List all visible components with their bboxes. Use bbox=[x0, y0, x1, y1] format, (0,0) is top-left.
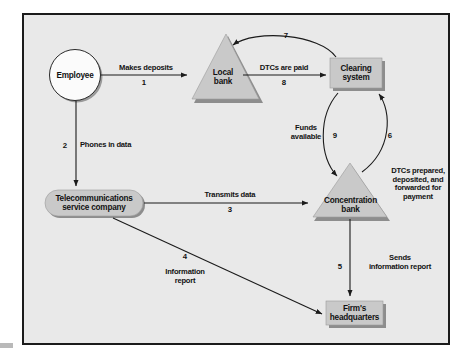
edge-4-label: Information report bbox=[150, 268, 220, 285]
edge-2-label: Phones in data bbox=[80, 141, 156, 150]
edge-8-number: 8 bbox=[272, 78, 296, 87]
edge-3-label: Transmits data bbox=[190, 191, 270, 200]
edge-6-number: 6 bbox=[383, 131, 397, 140]
edge-7-number: 7 bbox=[279, 31, 293, 40]
edge-1-number: 1 bbox=[132, 78, 156, 87]
node-clearing-system-label: Clearing system bbox=[331, 64, 381, 82]
node-telecom-label: Telecommunications service company bbox=[46, 194, 142, 212]
node-employee-label: Employee bbox=[45, 71, 105, 80]
figure-page: Employee Local bank Clearing system Tele… bbox=[0, 0, 472, 358]
edge-2-number: 2 bbox=[58, 141, 72, 150]
edge-9-number: 9 bbox=[328, 131, 342, 140]
edge-6-label: DTCs prepared, deposited, and forwarded … bbox=[385, 167, 451, 201]
edge-8-label: DTCs are paid bbox=[246, 64, 322, 73]
edge-1-label: Makes deposits bbox=[107, 64, 185, 73]
edge-9-label: Funds available bbox=[283, 124, 329, 141]
edge-5-number: 5 bbox=[333, 262, 347, 271]
edge-4-number: 4 bbox=[177, 252, 193, 261]
node-local-bank-label: Local bank bbox=[196, 68, 250, 86]
edge-5-label: Sends information report bbox=[352, 254, 448, 271]
edge-3-number: 3 bbox=[218, 205, 242, 214]
node-firm-hq-label: Firm's headquarters bbox=[325, 304, 384, 322]
node-concentration-bank-label: Concentration bank bbox=[315, 196, 386, 214]
edge-4-line bbox=[113, 218, 322, 314]
